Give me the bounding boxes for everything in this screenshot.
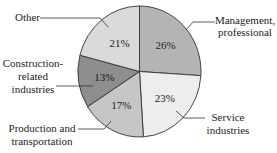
label-service-line2: industries (203, 125, 253, 136)
label-construction-line3: industries (2, 84, 64, 95)
label-construction-line1: Construction- (2, 58, 64, 69)
pie-percent-label: 21% (110, 37, 130, 49)
label-management: Management, professional (212, 15, 277, 38)
label-service: Service industries (203, 112, 253, 136)
pie-percent-label: 13% (94, 71, 114, 83)
label-production-line2: transportation (2, 136, 82, 147)
pie-percent-label: 17% (111, 99, 131, 111)
label-other: Other (10, 12, 40, 23)
leader-management (186, 22, 215, 30)
label-production-line1: Production and (2, 123, 82, 134)
label-production: Production and transportation (2, 123, 82, 147)
pie-percent-label: 23% (155, 92, 175, 104)
label-management-line2: professional (212, 27, 277, 38)
label-service-line1: Service (203, 112, 253, 123)
label-other-text: Other (15, 11, 40, 23)
label-management-line1: Management, (212, 15, 277, 26)
label-construction-line2: related (2, 71, 64, 82)
pie-percent-label: 26% (155, 39, 175, 51)
label-construction: Construction- related industries (2, 58, 64, 95)
